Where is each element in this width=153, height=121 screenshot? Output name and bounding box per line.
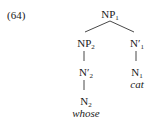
node-np1: NP1 <box>101 8 119 20</box>
tree-edges <box>0 0 153 121</box>
node-np2: NP2 <box>77 37 95 49</box>
node-n2: N2 <box>80 95 91 107</box>
word-whose: whose <box>72 107 100 119</box>
node-n1: N1 <box>131 66 142 78</box>
node-nbar2: N′2 <box>79 66 93 78</box>
word-cat: cat <box>130 78 143 90</box>
node-nbar1: N′1 <box>130 37 144 49</box>
